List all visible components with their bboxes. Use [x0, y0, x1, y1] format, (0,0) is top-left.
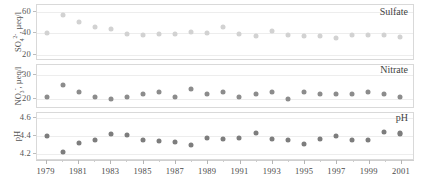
- gridline-sulfate-40: [37, 33, 413, 34]
- x-tick-label-1993: 1993: [263, 166, 281, 176]
- data-point-sulfate: [382, 33, 387, 38]
- data-point-nitrate: [269, 89, 274, 94]
- data-point-nitrate: [173, 94, 178, 99]
- y-tick-label-ph-4.4: 4.4: [20, 130, 31, 140]
- data-point-sulfate: [76, 20, 81, 25]
- x-minor-tick-1986: [159, 160, 160, 162]
- x-axis: 1979198119831985198719891991199319951997…: [36, 160, 414, 186]
- y-tick-nitrate-30: [33, 74, 36, 75]
- data-point-ph: [301, 142, 306, 147]
- x-tick-label-1989: 1989: [198, 166, 216, 176]
- data-point-ph: [333, 134, 338, 139]
- x-minor-tick-2000: [385, 160, 386, 162]
- x-tick-2001: [401, 160, 402, 164]
- x-tick-1985: [143, 160, 144, 164]
- y-tick-sulfate-40: [33, 32, 36, 33]
- data-point-ph: [60, 150, 65, 155]
- data-point-nitrate: [301, 89, 306, 94]
- data-point-sulfate: [253, 34, 258, 39]
- x-tick-1989: [207, 160, 208, 164]
- x-minor-tick-1980: [62, 160, 63, 162]
- data-point-sulfate: [205, 31, 210, 36]
- y-tick-label-ph-4.6: 4.6: [20, 112, 31, 122]
- x-tick-label-1995: 1995: [295, 166, 313, 176]
- data-point-sulfate: [92, 24, 97, 29]
- data-point-ph: [253, 131, 258, 136]
- data-point-nitrate: [108, 97, 113, 102]
- data-point-sulfate: [141, 33, 146, 38]
- data-point-ph: [173, 140, 178, 145]
- y-tick-label-sulfate-40: 40: [22, 27, 31, 37]
- multi-panel-scatter-chart: SO42-, µeq/l Sulfate 204060 NO3-, µeq/l …: [0, 0, 424, 186]
- x-tick-label-1997: 1997: [327, 166, 345, 176]
- data-point-ph: [269, 136, 274, 141]
- x-minor-tick-1998: [353, 160, 354, 162]
- data-point-ph: [349, 137, 354, 142]
- gridline-sulfate-20: [37, 55, 413, 56]
- data-point-sulfate: [237, 32, 242, 37]
- y-tick-ph-4.6: [33, 117, 36, 118]
- data-point-ph: [237, 135, 242, 140]
- data-point-nitrate: [398, 94, 403, 99]
- data-point-ph: [108, 132, 113, 137]
- data-point-nitrate: [221, 89, 226, 94]
- y-tick-label-sulfate-20: 20: [22, 49, 31, 59]
- x-tick-1997: [336, 160, 337, 164]
- x-tick-label-1991: 1991: [230, 166, 248, 176]
- panel-tag-nitrate: Nitrate: [380, 64, 408, 75]
- data-point-nitrate: [189, 87, 194, 92]
- data-point-sulfate: [365, 33, 370, 38]
- x-minor-tick-1984: [126, 160, 127, 162]
- plot-area-ph: [36, 112, 414, 160]
- data-point-nitrate: [349, 92, 354, 97]
- data-point-sulfate: [189, 29, 194, 34]
- data-point-ph: [317, 136, 322, 141]
- data-point-sulfate: [333, 36, 338, 41]
- y-tick-sulfate-60: [33, 11, 36, 12]
- x-minor-tick-1990: [223, 160, 224, 162]
- x-tick-label-1985: 1985: [134, 166, 152, 176]
- data-point-ph: [221, 136, 226, 141]
- x-minor-tick-1982: [94, 160, 95, 162]
- data-point-sulfate: [60, 12, 65, 17]
- x-tick-label-1999: 1999: [360, 166, 378, 176]
- data-point-nitrate: [237, 94, 242, 99]
- x-minor-tick-1994: [288, 160, 289, 162]
- y-tick-label-sulfate-60: 60: [22, 6, 31, 16]
- x-tick-1983: [110, 160, 111, 164]
- gridline-ph-4.6: [37, 118, 413, 119]
- data-point-sulfate: [349, 33, 354, 38]
- x-tick-1979: [46, 160, 47, 164]
- data-point-ph: [124, 133, 129, 138]
- data-point-sulfate: [269, 28, 274, 33]
- data-point-ph: [76, 141, 81, 146]
- data-point-ph: [205, 135, 210, 140]
- data-point-ph: [285, 137, 290, 142]
- data-point-sulfate: [124, 32, 129, 37]
- y-tick-label-nitrate-30: 30: [22, 69, 31, 79]
- x-axis-line: [36, 160, 414, 161]
- x-tick-label-1981: 1981: [69, 166, 87, 176]
- y-tick-ph-4.2: [33, 153, 36, 154]
- data-point-ph: [92, 137, 97, 142]
- data-point-nitrate: [382, 92, 387, 97]
- x-tick-1999: [369, 160, 370, 164]
- x-tick-1993: [272, 160, 273, 164]
- y-tick-label-ph-4.2: 4.2: [20, 148, 31, 158]
- x-tick-label-2001: 2001: [392, 166, 410, 176]
- gridline-sulfate-60: [37, 12, 413, 13]
- data-point-sulfate: [285, 33, 290, 38]
- x-tick-1991: [240, 160, 241, 164]
- data-point-sulfate: [301, 34, 306, 39]
- data-point-ph: [157, 138, 162, 143]
- x-tick-label-1979: 1979: [37, 166, 55, 176]
- y-tick-sulfate-20: [33, 54, 36, 55]
- data-point-nitrate: [141, 92, 146, 97]
- data-point-nitrate: [317, 92, 322, 97]
- data-point-nitrate: [333, 92, 338, 97]
- data-point-sulfate: [157, 32, 162, 37]
- x-minor-tick-1992: [256, 160, 257, 162]
- data-point-sulfate: [221, 24, 226, 29]
- panel-ph: pH pH 4.24.44.6: [36, 112, 414, 160]
- y-tick-label-nitrate-20: 20: [22, 93, 31, 103]
